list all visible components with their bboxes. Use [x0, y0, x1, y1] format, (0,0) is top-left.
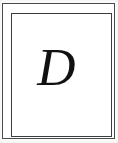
glyph-field: D: [9, 10, 108, 132]
letter-glyph: D: [37, 41, 75, 94]
letter-plate: D: [0, 0, 118, 143]
